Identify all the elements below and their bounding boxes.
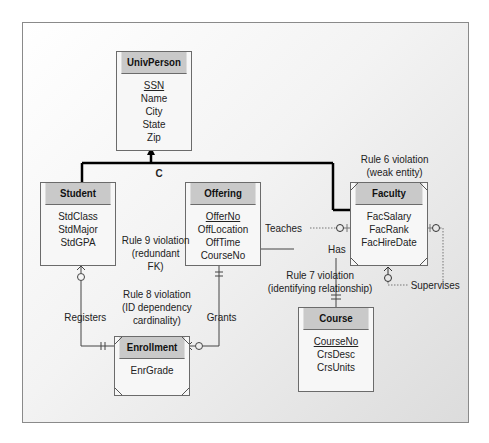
entity-attributes: SSN Name City State Zip xyxy=(117,74,191,144)
attribute: StdClass xyxy=(45,210,112,223)
entity-name: Faculty xyxy=(356,183,423,205)
registers-line xyxy=(77,266,114,350)
attribute: State xyxy=(121,118,188,131)
weak-entity-corner-icon xyxy=(115,388,122,395)
entity-name: Offering xyxy=(190,183,255,205)
generalization-label: C xyxy=(155,167,162,180)
attribute: CrsUnits xyxy=(303,361,370,374)
relationship-has: Has xyxy=(328,243,346,256)
entity-name: Student xyxy=(45,183,110,205)
grants-line xyxy=(188,266,223,350)
weak-entity-corner-icon xyxy=(115,337,122,344)
entity-enrollment: Enrollment EnrGrade xyxy=(114,336,190,396)
attribute: CourseNo xyxy=(190,249,257,262)
attribute: Name xyxy=(121,92,188,105)
entity-name: UnivPerson xyxy=(121,52,186,74)
annotation-rule7: Rule 7 violation (identifying relationsh… xyxy=(268,269,373,295)
relationship-registers: Registers xyxy=(64,311,106,324)
entity-name: Course xyxy=(303,308,368,330)
entity-student: Student StdClass StdMajor StdGPA xyxy=(40,182,116,266)
attribute: OffTime xyxy=(190,236,257,249)
entity-attributes: FacSalary FacRank FacHireDate xyxy=(351,205,427,249)
attribute: City xyxy=(121,105,188,118)
attribute-pk: SSN xyxy=(121,79,188,92)
entity-course: Course CourseNo CrsDesc CrsUnits xyxy=(298,307,374,392)
attribute: StdMajor xyxy=(45,223,112,236)
weak-entity-corner-icon xyxy=(351,258,358,265)
weak-entity-corner-icon xyxy=(182,388,189,395)
attribute: OffLocation xyxy=(190,223,257,236)
attribute: EnrGrade xyxy=(119,364,186,377)
entity-name: Enrollment xyxy=(119,337,184,359)
annotation-rule6: Rule 6 violation (weak entity) xyxy=(361,153,429,179)
relationship-teaches: Teaches xyxy=(265,222,302,235)
attribute-pk: CourseNo xyxy=(303,335,370,348)
entity-attributes: EnrGrade xyxy=(115,359,189,377)
entity-faculty: Faculty FacSalary FacRank FacHireDate xyxy=(350,182,428,266)
attribute-pk: OfferNo xyxy=(190,210,257,223)
weak-entity-corner-icon xyxy=(420,258,427,265)
attribute: FacHireDate xyxy=(355,236,423,249)
attribute: FacSalary xyxy=(355,210,423,223)
entity-univperson: UnivPerson SSN Name City State Zip xyxy=(116,51,192,151)
weak-entity-corner-icon xyxy=(420,183,427,190)
entity-attributes: OfferNo OffLocation OffTime CourseNo xyxy=(186,205,260,262)
entity-offering: Offering OfferNo OffLocation OffTime Cou… xyxy=(185,182,261,266)
annotation-rule8: Rule 8 violation (ID dependency cardinal… xyxy=(122,288,192,327)
relationship-grants: Grants xyxy=(207,311,237,324)
entity-attributes: CourseNo CrsDesc CrsUnits xyxy=(299,330,373,374)
entity-attributes: StdClass StdMajor StdGPA xyxy=(41,205,115,249)
annotation-rule9: Rule 9 violation (redundant FK) xyxy=(122,234,190,273)
attribute: Zip xyxy=(121,131,188,144)
attribute: StdGPA xyxy=(45,236,112,249)
attribute: CrsDesc xyxy=(303,348,370,361)
relationship-supervises: Supervises xyxy=(411,279,460,292)
attribute: FacRank xyxy=(355,223,423,236)
weak-entity-corner-icon xyxy=(182,337,189,344)
weak-entity-corner-icon xyxy=(351,183,358,190)
